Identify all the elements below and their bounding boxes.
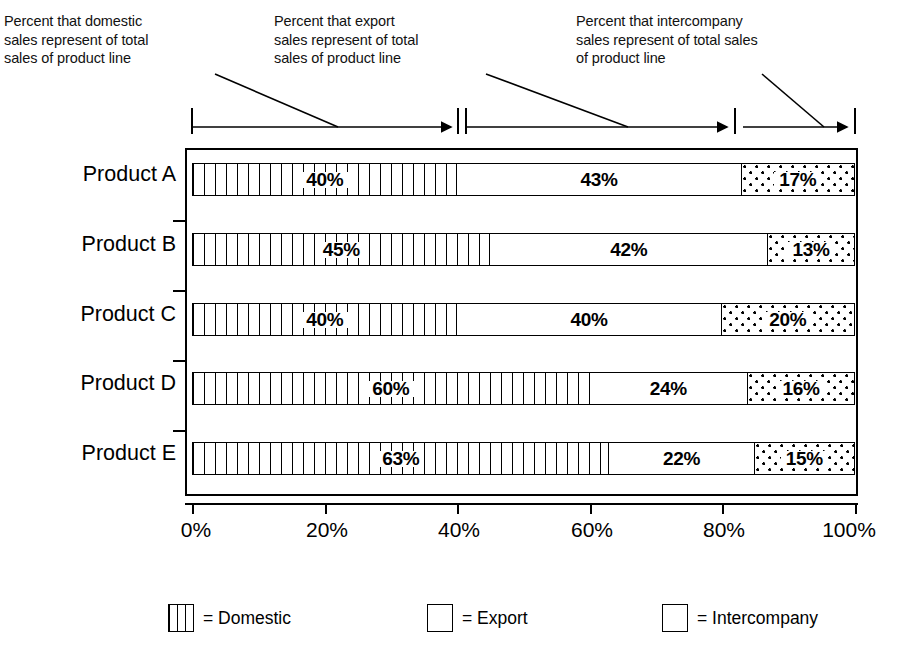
legend-swatch-export-icon	[427, 604, 453, 632]
bar-segment-domestic: 45%	[193, 234, 490, 265]
bar-segment-intercompany: 20%	[722, 304, 854, 335]
legend-swatch-domestic-icon	[168, 604, 194, 632]
bar-segment-export: 24%	[590, 373, 749, 404]
table-row: 40% 40% 20%	[192, 303, 855, 336]
value-axis-tick	[722, 503, 724, 514]
category-label-product-d: Product D	[36, 371, 176, 396]
value-axis-label-20: 20%	[306, 518, 348, 542]
stacked-bar-chart: Percent that domestic sales represent of…	[0, 0, 906, 654]
measurement-arrow-row	[0, 104, 906, 138]
legend: = Domestic = Export = Intercompany	[0, 600, 906, 640]
value-axis-tick	[325, 503, 327, 514]
bar-segment-export: 40%	[457, 304, 721, 335]
legend-swatch-intercompany-icon	[662, 604, 688, 632]
value-axis-label-60: 60%	[571, 518, 613, 542]
legend-item-export: = Export	[427, 604, 528, 632]
category-axis-tick	[173, 220, 186, 222]
table-row: 45% 42% 13%	[192, 233, 855, 266]
value-axis-label-0: 0%	[181, 518, 211, 542]
legend-label-intercompany: = Intercompany	[697, 608, 818, 629]
bar-segment-export: 22%	[609, 443, 754, 474]
bar-segment-intercompany: 15%	[755, 443, 854, 474]
value-axis-label-40: 40%	[438, 518, 480, 542]
value-axis-label-80: 80%	[703, 518, 745, 542]
value-axis-line	[185, 503, 858, 505]
category-label-product-c: Product C	[36, 302, 176, 327]
value-axis-tick	[855, 503, 857, 514]
bar-segment-domestic: 60%	[193, 373, 590, 404]
bar-segment-intercompany: 17%	[742, 164, 854, 195]
bar-segment-domestic: 63%	[193, 443, 609, 474]
category-label-product-b: Product B	[36, 232, 176, 257]
value-axis-tick	[457, 503, 459, 514]
category-axis-tick	[173, 290, 186, 292]
legend-item-domestic: = Domestic	[168, 604, 291, 632]
category-axis-tick	[173, 430, 186, 432]
bar-segment-domestic: 40%	[193, 304, 457, 335]
bar-segment-export: 43%	[457, 164, 741, 195]
bar-segment-intercompany: 16%	[748, 373, 854, 404]
category-label-product-e: Product E	[36, 441, 176, 466]
table-row: 63% 22% 15%	[192, 442, 855, 475]
category-axis-tick	[173, 360, 186, 362]
category-label-product-a: Product A	[36, 162, 176, 187]
value-axis-tick	[192, 503, 194, 514]
value-axis-label-100: 100%	[822, 518, 876, 542]
bar-segment-domestic: 40%	[193, 164, 457, 195]
legend-label-domestic: = Domestic	[203, 608, 291, 629]
bar-segment-export: 42%	[490, 234, 768, 265]
legend-label-export: = Export	[462, 608, 528, 629]
table-row: 40% 43% 17%	[192, 163, 855, 196]
legend-item-intercompany: = Intercompany	[662, 604, 818, 632]
bar-segment-intercompany: 13%	[768, 234, 854, 265]
table-row: 60% 24% 16%	[192, 372, 855, 405]
value-axis-tick	[590, 503, 592, 514]
